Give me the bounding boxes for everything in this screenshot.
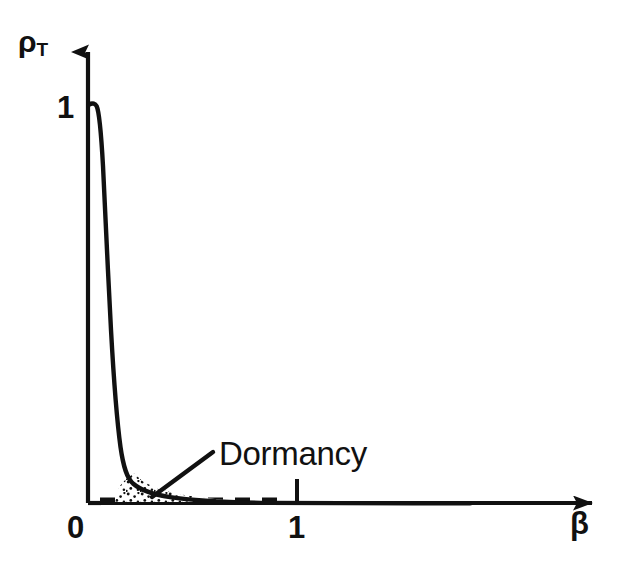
- x-axis-label: β: [570, 508, 589, 539]
- leader-line-icon: [152, 452, 213, 497]
- dormancy-annotation-label: Dormancy: [219, 437, 367, 470]
- y-axis-label-subscript: T: [37, 39, 49, 60]
- y-tick-label-one: 1: [57, 92, 74, 123]
- chart-figure: ρT β 1 0 1 Dormancy: [0, 0, 619, 569]
- y-axis-label-base: ρ: [18, 25, 37, 58]
- plot-canvas: [0, 0, 619, 569]
- x-tick-label-one: 1: [288, 512, 305, 543]
- y-axis-label: ρT: [18, 27, 48, 59]
- x-tick-label-zero: 0: [67, 512, 84, 543]
